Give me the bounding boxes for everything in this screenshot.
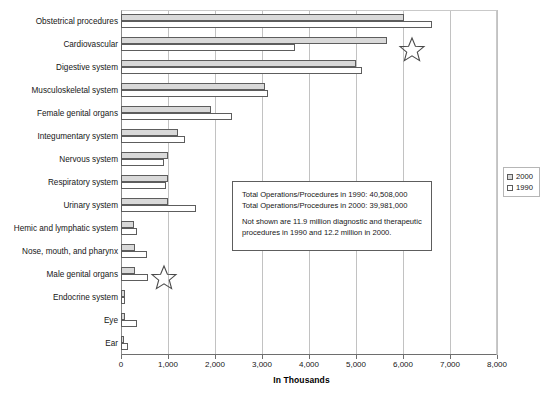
bar-1990: [121, 251, 147, 258]
category-label: Integumentary system: [2, 132, 118, 142]
x-tick-mark: [403, 355, 404, 359]
note-line-notshown-1: Not shown are 11.9 million diagnostic an…: [242, 217, 422, 228]
bar-1990: [121, 297, 125, 304]
x-tick-mark: [450, 355, 451, 359]
legend-item-2000[interactable]: 2000: [507, 171, 536, 182]
x-tick-label: 2,000: [195, 360, 235, 369]
category-label: Ear: [2, 339, 118, 349]
bar-2000: [121, 198, 168, 205]
summary-note-box: Total Operations/Procedures in 1990: 40,…: [232, 181, 432, 251]
bar-1990: [121, 274, 148, 281]
bar-1990: [121, 44, 295, 51]
horizontal-bar-chart: Obstetrical proceduresCardiovascularDige…: [0, 0, 547, 397]
bar-2000: [121, 244, 135, 251]
note-line-notshown-2: procedures in 1990 and 12.2 million in 2…: [242, 228, 422, 239]
star-marker-cardiovascular-icon: [398, 36, 426, 64]
bar-1990: [121, 159, 164, 166]
x-tick-mark: [262, 355, 263, 359]
category-label: Obstetrical procedures: [2, 17, 118, 27]
legend: 2000 1990: [503, 167, 540, 197]
category-label: Digestive system: [2, 63, 118, 73]
x-tick-label: 3,000: [242, 360, 282, 369]
category-label: Female genital organs: [2, 109, 118, 119]
category-label: Nervous system: [2, 155, 118, 165]
x-tick-mark: [497, 355, 498, 359]
x-tick-label: 8,000: [477, 360, 517, 369]
note-line-total-2000: Total Operations/Procedures in 2000: 39,…: [242, 201, 422, 212]
x-tick-mark: [121, 355, 122, 359]
bar-row: Digestive system: [0, 56, 547, 79]
x-axis-title-text: In Thousands: [273, 375, 329, 385]
bar-1990: [121, 21, 432, 28]
legend-swatch-2000-icon: [507, 174, 513, 180]
bar-1990: [121, 67, 362, 74]
bar-2000: [121, 83, 265, 90]
x-tick-label: 4,000: [289, 360, 329, 369]
category-label: Cardiovascular: [2, 40, 118, 50]
bar-row: Musculoskeletal system: [0, 79, 547, 102]
bar-row: Ear: [0, 332, 547, 355]
x-tick-label: 1,000: [148, 360, 188, 369]
x-tick-label: 6,000: [383, 360, 423, 369]
bar-1990: [121, 205, 196, 212]
bar-1990: [121, 136, 185, 143]
bar-row: Endocrine system: [0, 286, 547, 309]
bar-2000: [121, 152, 168, 159]
bar-row: Male genital organs: [0, 263, 547, 286]
x-axis-title: In Thousands: [0, 375, 547, 385]
category-label: Musculoskeletal system: [2, 86, 118, 96]
category-label: Endocrine system: [2, 293, 118, 303]
bar-2000: [121, 336, 124, 343]
x-tick-mark: [356, 355, 357, 359]
bar-row: Integumentary system: [0, 125, 547, 148]
x-tick-label: 7,000: [430, 360, 470, 369]
bar-1990: [121, 90, 268, 97]
x-tick-mark: [215, 355, 216, 359]
x-tick-label: 5,000: [336, 360, 376, 369]
bar-2000: [121, 129, 178, 136]
category-label: Urinary system: [2, 201, 118, 211]
x-tick-label: 0: [101, 360, 141, 369]
bar-2000: [121, 267, 135, 274]
bar-row: Cardiovascular: [0, 33, 547, 56]
legend-label-1990: 1990: [516, 183, 533, 192]
bar-row: Nervous system: [0, 148, 547, 171]
bar-2000: [121, 37, 387, 44]
bar-2000: [121, 313, 125, 320]
x-tick-mark: [309, 355, 310, 359]
category-label: Eye: [2, 316, 118, 326]
bar-1990: [121, 113, 232, 120]
bar-2000: [121, 290, 125, 297]
note-line-total-1990: Total Operations/Procedures in 1990: 40,…: [242, 190, 422, 201]
legend-label-2000: 2000: [516, 172, 533, 181]
legend-item-1990[interactable]: 1990: [507, 182, 536, 193]
category-label: Hemic and lymphatic system: [2, 224, 118, 234]
x-tick-mark: [168, 355, 169, 359]
category-label: Nose, mouth, and pharynx: [2, 247, 118, 257]
star-marker-male-genital-organs-icon: [150, 264, 178, 292]
bar-row: Female genital organs: [0, 102, 547, 125]
bar-1990: [121, 228, 137, 235]
bar-row: Obstetrical procedures: [0, 10, 547, 33]
category-label: Respiratory system: [2, 178, 118, 188]
bar-2000: [121, 60, 356, 67]
bar-2000: [121, 106, 211, 113]
bar-1990: [121, 182, 166, 189]
bar-1990: [121, 343, 128, 350]
category-label: Male genital organs: [2, 270, 118, 280]
legend-swatch-1990-icon: [507, 185, 513, 191]
bar-2000: [121, 14, 404, 21]
bar-row: Eye: [0, 309, 547, 332]
bar-1990: [121, 320, 137, 327]
bar-2000: [121, 221, 134, 228]
bar-2000: [121, 175, 168, 182]
